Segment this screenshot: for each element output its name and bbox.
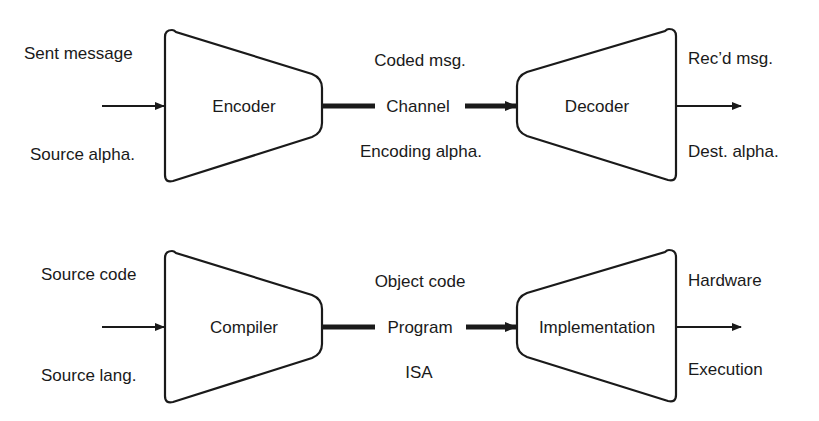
middle-bottom-label: ISA [405, 363, 433, 382]
implementation-label: Implementation [539, 318, 655, 337]
input-bottom-label: Source lang. [41, 366, 136, 385]
input-top-label: Sent message [24, 44, 133, 63]
decoder-label: Decoder [565, 97, 630, 116]
middle-center-label: Channel [386, 97, 449, 116]
middle-bottom-label: Encoding alpha. [360, 142, 482, 161]
row-computation: Source code Source lang. Compiler Object… [41, 250, 763, 402]
encoder-label: Encoder [212, 97, 276, 116]
middle-top-label: Object code [375, 272, 466, 291]
output-top-label: Rec’d msg. [688, 49, 773, 68]
compiler-label: Compiler [210, 318, 278, 337]
output-bottom-label: Execution [688, 360, 763, 379]
output-top-label: Hardware [688, 271, 762, 290]
output-bottom-label: Dest. alpha. [688, 142, 779, 161]
middle-top-label: Coded msg. [374, 51, 466, 70]
analogy-diagram: Sent message Source alpha. Encoder Coded… [0, 0, 819, 421]
input-bottom-label: Source alpha. [30, 145, 135, 164]
row-communication: Sent message Source alpha. Encoder Coded… [24, 29, 779, 181]
input-top-label: Source code [41, 265, 136, 284]
middle-center-label: Program [387, 318, 452, 337]
